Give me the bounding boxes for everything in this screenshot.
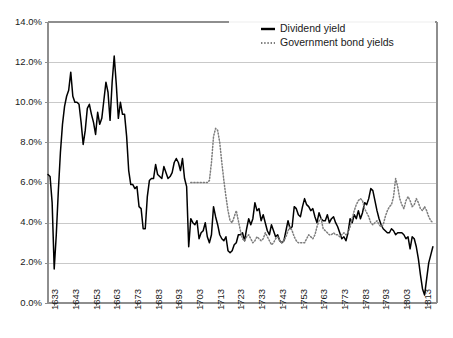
x-axis-tick-label: 1673	[132, 289, 143, 310]
x-axis-tick-label: 1783	[360, 289, 371, 310]
chart-container: 0.0%2.0%4.0%6.0%8.0%10.0%12.0%14.0% 1633…	[0, 0, 453, 338]
x-axis-tick-label: 1653	[91, 289, 102, 310]
y-axis-tick-label: 14.0%	[15, 16, 42, 27]
legend-label-dividend-yield: Dividend yield	[280, 22, 346, 34]
x-axis-tick-label: 1683	[153, 289, 164, 310]
x-axis-tick-label: 1703	[194, 289, 205, 310]
x-axis-tick-label: 1753	[298, 289, 309, 310]
legend: Dividend yield Government bond yields	[229, 20, 435, 52]
x-axis-tick-label: 1663	[111, 289, 122, 310]
x-axis-tick-label: 1743	[277, 289, 288, 310]
y-axis-tick-label: 0.0%	[20, 297, 42, 308]
x-axis-tick-label: 1733	[256, 289, 267, 310]
y-axis-tick-label: 8.0%	[20, 136, 42, 147]
x-axis-tick-label: 1693	[173, 289, 184, 310]
y-axis-tick-label: 6.0%	[20, 176, 42, 187]
y-axis-tick-label: 10.0%	[15, 96, 42, 107]
x-axis-tick-label: 1793	[380, 289, 391, 310]
x-axis-tick-label: 1633	[49, 289, 60, 310]
x-axis-tick-label: 1763	[318, 289, 329, 310]
y-axis-tick-label: 2.0%	[20, 256, 42, 267]
x-axis-tick-label: 1723	[235, 289, 246, 310]
y-axis-labels: 0.0%2.0%4.0%6.0%8.0%10.0%12.0%14.0%	[15, 16, 48, 308]
y-axis-tick-label: 12.0%	[15, 56, 42, 67]
x-axis-tick-label: 1803	[401, 289, 412, 310]
yield-chart: 0.0%2.0%4.0%6.0%8.0%10.0%12.0%14.0% 1633…	[0, 0, 453, 338]
plot-background	[48, 22, 437, 303]
x-axis-tick-label: 1713	[215, 289, 226, 310]
x-axis-tick-label: 1643	[70, 289, 81, 310]
legend-label-government-bond-yields: Government bond yields	[280, 36, 394, 48]
x-axis-tick-label: 1773	[339, 289, 350, 310]
y-axis-tick-label: 4.0%	[20, 216, 42, 227]
